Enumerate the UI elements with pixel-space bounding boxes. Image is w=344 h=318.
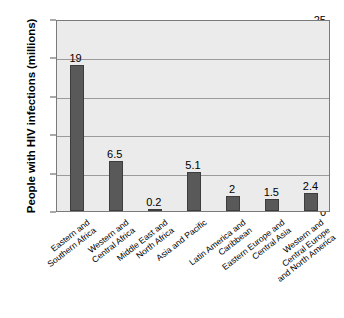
bar-value-label: 19: [69, 52, 81, 64]
bar: [265, 199, 279, 211]
bar-value-label: 2.4: [303, 180, 318, 192]
hiv-infections-bar-chart: People with HIV infections (millions) 05…: [0, 0, 344, 318]
bar: [304, 193, 318, 211]
bar: [226, 196, 240, 211]
bar: [148, 209, 162, 212]
bar-value-label: 1.5: [264, 186, 279, 198]
bar-value-label: 2: [229, 183, 235, 195]
bar-value-label: 0.2: [146, 196, 161, 208]
bar-value-label: 6.5: [107, 148, 122, 160]
gridline-15: [57, 98, 329, 99]
gridline-10: [57, 136, 329, 137]
bar: [109, 161, 123, 211]
gridline-20: [57, 59, 329, 60]
plot-area: [56, 20, 330, 212]
y-axis-title: People with HIV infections (millions): [25, 11, 37, 221]
bar-value-label: 5.1: [185, 159, 200, 171]
bar: [187, 172, 201, 211]
bar: [70, 65, 84, 211]
